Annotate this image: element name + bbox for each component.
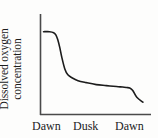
x-tick-label-dusk: Dusk	[73, 117, 98, 136]
dissolved-oxygen-chart: Dissolved oxygen concentration Dawn Dusk…	[0, 0, 158, 138]
x-tick-label-dawn-start: Dawn	[32, 117, 61, 136]
x-axis-tick-labels: Dawn Dusk Dawn	[28, 117, 156, 136]
x-tick-label-dawn-end: Dawn	[115, 117, 144, 136]
oxygen-concentration-curve	[44, 32, 143, 103]
